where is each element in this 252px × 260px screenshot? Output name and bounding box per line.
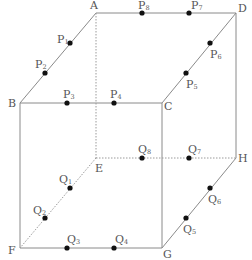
point-label: Q5 xyxy=(183,223,196,236)
point-dot xyxy=(67,185,72,190)
point-label: P7 xyxy=(191,0,203,12)
point-label: P6 xyxy=(210,48,222,61)
point-label: P2 xyxy=(35,58,47,71)
point-q1: Q1 xyxy=(59,173,73,191)
vertex-label-b: B xyxy=(8,97,16,110)
solid-edges xyxy=(20,13,236,248)
edge-CD xyxy=(162,13,236,103)
point-label: Q4 xyxy=(115,233,128,246)
edge-HG xyxy=(162,158,236,248)
point-p5: P5 xyxy=(183,70,197,91)
point-label: Q8 xyxy=(138,143,151,156)
point-dot xyxy=(111,100,116,105)
cube-diagram: P1P2P3P4P5P6P7P8Q1Q2Q3Q4Q5Q6Q7Q8 ADBCEHF… xyxy=(0,0,252,260)
vertex-labels: ADBCEHFG xyxy=(8,0,248,260)
marked-points: P1P2P3P4P5P6P7P8Q1Q2Q3Q4Q5Q6Q7Q8 xyxy=(33,0,222,251)
hidden-edges xyxy=(20,13,236,248)
point-dot xyxy=(111,245,116,250)
vertex-label-d: D xyxy=(238,2,247,15)
point-dot xyxy=(186,155,191,160)
point-q6: Q6 xyxy=(207,185,221,206)
point-dot xyxy=(207,185,212,190)
point-label: Q2 xyxy=(33,204,46,217)
point-q8: Q8 xyxy=(138,143,151,161)
hidden-edge-EF xyxy=(20,158,96,248)
vertex-label-g: G xyxy=(163,248,172,260)
point-dot xyxy=(64,100,69,105)
point-q2: Q2 xyxy=(33,204,48,221)
point-dot xyxy=(183,215,188,220)
point-label: Q7 xyxy=(188,143,201,156)
point-label: P1 xyxy=(57,33,69,46)
point-dot xyxy=(207,40,212,45)
point-label: Q6 xyxy=(208,193,221,206)
point-label: P5 xyxy=(186,78,198,91)
edge-AB xyxy=(20,13,96,103)
point-q5: Q5 xyxy=(183,215,196,236)
vertex-label-h: H xyxy=(238,152,248,165)
vertex-label-f: F xyxy=(8,244,16,257)
vertex-label-c: C xyxy=(164,100,172,113)
point-label: Q1 xyxy=(59,173,72,186)
point-label: Q3 xyxy=(67,233,80,246)
point-dot xyxy=(42,70,47,75)
vertex-label-a: A xyxy=(89,0,99,12)
point-dot xyxy=(183,70,188,75)
point-p2: P2 xyxy=(35,58,48,76)
point-dot xyxy=(64,245,69,250)
point-label: P8 xyxy=(138,0,150,12)
point-label: P3 xyxy=(63,88,75,101)
point-label: P4 xyxy=(110,88,122,101)
point-p6: P6 xyxy=(207,40,221,61)
vertex-label-e: E xyxy=(95,162,103,175)
point-dot xyxy=(139,155,144,160)
point-p1: P1 xyxy=(57,33,73,46)
